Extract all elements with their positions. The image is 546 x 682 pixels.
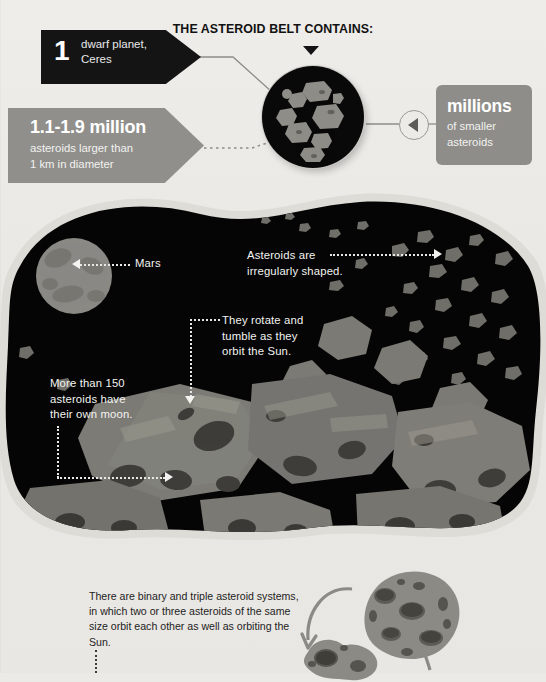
callout-number: 1.1-1.9 million — [30, 117, 146, 138]
irregular-leader-line — [330, 254, 434, 256]
annotation-line: their own moon. — [50, 407, 170, 423]
moon-leader-h — [57, 477, 165, 479]
moon-leader-v — [57, 426, 59, 478]
annotation-irregular-shape: Asteroids are irregularly shaped. — [247, 248, 367, 279]
binary-leader-line — [95, 650, 97, 673]
annotation-rotate-tumble: They rotate and tumble as they orbit the… — [222, 313, 337, 360]
binary-asteroid-icon — [300, 636, 386, 682]
annotation-mars: Mars — [135, 256, 161, 272]
panel-shape — [0, 188, 546, 550]
callout-number: 1 — [54, 37, 70, 65]
arrow-right-icon — [434, 249, 442, 259]
arrow-left-icon — [72, 259, 80, 269]
asteroid-cluster-disc — [262, 66, 364, 168]
annotation-line: They rotate and — [222, 313, 337, 329]
binary-systems-paragraph: There are binary and triple asteroid sys… — [89, 589, 304, 650]
callout-line-1: asteroids larger than — [30, 142, 133, 154]
callout-smaller-asteroids[interactable]: millions of smaller asteroids — [436, 85, 532, 165]
rotate-leader-v — [190, 319, 192, 397]
callout-number: millions — [447, 96, 512, 117]
annotation-line: asteroids have — [50, 392, 170, 408]
callout-line-2: Ceres — [81, 53, 112, 65]
callout-line-2: 1 km in diameter — [30, 158, 114, 170]
connector-node[interactable] — [399, 110, 429, 140]
callout-line-2: asteroids — [447, 136, 493, 148]
callout-dwarf-planet[interactable]: 1 dwarf planet, Ceres — [41, 30, 201, 84]
callout-line-1: dwarf planet, — [81, 38, 147, 50]
asteroid-belt-panel: Mars Asteroids are irregularly shaped. T… — [0, 188, 546, 550]
mars-leader-line — [80, 264, 130, 266]
annotation-line: tumble as they — [222, 329, 337, 345]
mars-planet — [36, 238, 112, 314]
annotation-line: More than 150 — [50, 376, 170, 392]
arrow-down-icon — [185, 396, 195, 404]
callout-line-1: of smaller — [447, 120, 496, 132]
triangle-down-icon — [303, 46, 319, 55]
callout-asteroid-count[interactable]: 1.1-1.9 million asteroids larger than 1 … — [8, 108, 204, 183]
arrow-right-icon — [165, 472, 173, 482]
annotation-line: orbit the Sun. — [222, 344, 337, 360]
triangle-left-icon — [408, 118, 418, 132]
annotation-own-moon: More than 150 asteroids have their own m… — [50, 376, 170, 423]
annotation-line: irregularly shaped. — [247, 264, 367, 280]
disc-rocks — [262, 66, 364, 168]
rotate-leader-h — [190, 319, 220, 321]
